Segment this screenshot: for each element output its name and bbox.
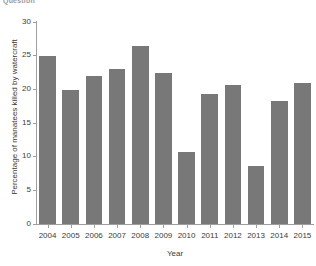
y-axis-label: Percentage of manatees killed by watercr… [10, 12, 20, 222]
x-tick-label: 2012 [221, 230, 244, 241]
bar[interactable] [39, 56, 56, 224]
bar-slot [175, 22, 198, 224]
x-tick-mark [48, 225, 49, 228]
bar[interactable] [62, 90, 79, 224]
y-tick-label: 10 [22, 151, 31, 161]
bar-series [36, 22, 314, 224]
y-tick-label: 5 [27, 185, 31, 195]
bar[interactable] [201, 94, 218, 224]
bar[interactable] [248, 166, 265, 224]
bar[interactable] [225, 85, 242, 224]
bar[interactable] [271, 101, 288, 224]
bar[interactable] [86, 76, 103, 224]
x-tick-mark [71, 225, 72, 228]
bar-slot [82, 22, 105, 224]
bar-slot [152, 22, 175, 224]
x-tick-mark [256, 225, 257, 228]
bar-slot [129, 22, 152, 224]
chart-figure: Question 051015202530 200420052006200720… [0, 0, 316, 266]
y-tick-label: 25 [22, 50, 31, 60]
x-tick-mark [140, 225, 141, 228]
x-tick-mark [233, 225, 234, 228]
y-tick-label: 20 [22, 84, 31, 94]
y-tick-label: 30 [22, 17, 31, 27]
bar-slot [221, 22, 244, 224]
x-tick-mark [94, 225, 95, 228]
x-tick-mark [210, 225, 211, 228]
x-axis-spine [36, 224, 314, 225]
bar[interactable] [132, 46, 149, 224]
x-tick-mark [163, 225, 164, 228]
bar-slot [291, 22, 314, 224]
y-tick-label: 0 [27, 219, 31, 229]
x-tick-mark [187, 225, 188, 228]
caption-fragment: Question [3, 0, 73, 5]
x-tick-mark [279, 225, 280, 228]
x-tick-mark [117, 225, 118, 228]
bar-slot [268, 22, 291, 224]
x-tick-label: 2008 [129, 230, 152, 241]
bar-slot [36, 22, 59, 224]
x-axis-label: Year [36, 248, 314, 259]
x-tick-label: 2004 [36, 230, 59, 241]
y-tick-label: 15 [22, 118, 31, 128]
x-tick-label: 2015 [291, 230, 314, 241]
x-tick-label: 2010 [175, 230, 198, 241]
bar-slot [245, 22, 268, 224]
bar-slot [59, 22, 82, 224]
bar[interactable] [109, 69, 126, 224]
x-tick-label: 2014 [268, 230, 291, 241]
x-tick-label: 2007 [106, 230, 129, 241]
x-tick-label: 2006 [82, 230, 105, 241]
bar[interactable] [155, 73, 172, 225]
bar-slot [198, 22, 221, 224]
x-tick-label: 2013 [245, 230, 268, 241]
x-tick-mark [302, 225, 303, 228]
x-tick-label: 2009 [152, 230, 175, 241]
bar[interactable] [294, 83, 311, 224]
bar[interactable] [178, 152, 195, 224]
x-tick-label: 2005 [59, 230, 82, 241]
x-tick-label: 2011 [198, 230, 221, 241]
bar-slot [106, 22, 129, 224]
